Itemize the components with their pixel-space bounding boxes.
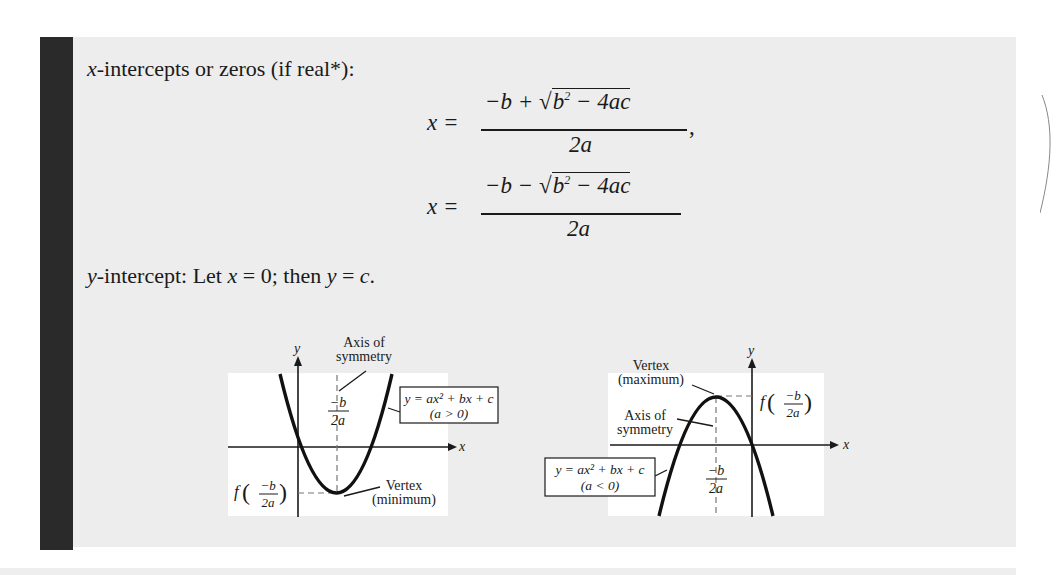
paren-open: (	[767, 389, 775, 415]
equation-box-line2: (a < 0)	[581, 478, 620, 493]
f-value-den: 2a	[262, 495, 276, 510]
x-axis-label: x	[842, 437, 850, 452]
equation-box-line1: y = ax² + bx + c	[402, 391, 493, 406]
vertex-label: (minimum)	[372, 492, 436, 508]
vertex-label: (maximum)	[618, 372, 684, 388]
x-axis-arrow-icon	[830, 441, 839, 449]
f-value-den: 2a	[787, 405, 801, 420]
parabola-maximum-diagram: x y Vertex (maximum) Axis of symmetry f …	[545, 343, 850, 517]
paren-close: )	[804, 389, 812, 415]
vertex-x-num: −b	[708, 463, 724, 478]
equation-box-line2: (a > 0)	[430, 406, 469, 421]
paren-close: )	[279, 479, 287, 505]
parabola-minimum-diagram: x y Axis of symmetry −b 2a y = ax² + bx …	[228, 335, 498, 517]
y-axis-label: y	[746, 343, 755, 358]
y-axis-arrow-icon	[294, 356, 302, 366]
vertex-label: Vertex	[633, 358, 670, 373]
x-axis-arrow-icon	[448, 443, 457, 451]
axis-label: symmetry	[617, 422, 673, 437]
f-value-num: −b	[260, 478, 276, 493]
vertex-label: Vertex	[386, 478, 423, 493]
axis-label: symmetry	[336, 349, 392, 364]
axis-label: Axis of	[343, 335, 385, 350]
y-axis-label: y	[292, 341, 301, 356]
paren-open: (	[242, 479, 250, 505]
axis-label: Axis of	[624, 408, 666, 423]
y-axis-arrow-icon	[748, 358, 756, 368]
vertex-x-num: −b	[330, 395, 346, 410]
f-value-num: −b	[785, 388, 801, 403]
parabola-diagrams: x y Axis of symmetry −b 2a y = ax² + bx …	[0, 0, 1062, 575]
equation-box-line1: y = ax² + bx + c	[553, 462, 644, 477]
vertex-x-den: 2a	[331, 413, 345, 428]
vertex-x-den: 2a	[709, 481, 723, 496]
x-axis-label: x	[458, 439, 466, 454]
